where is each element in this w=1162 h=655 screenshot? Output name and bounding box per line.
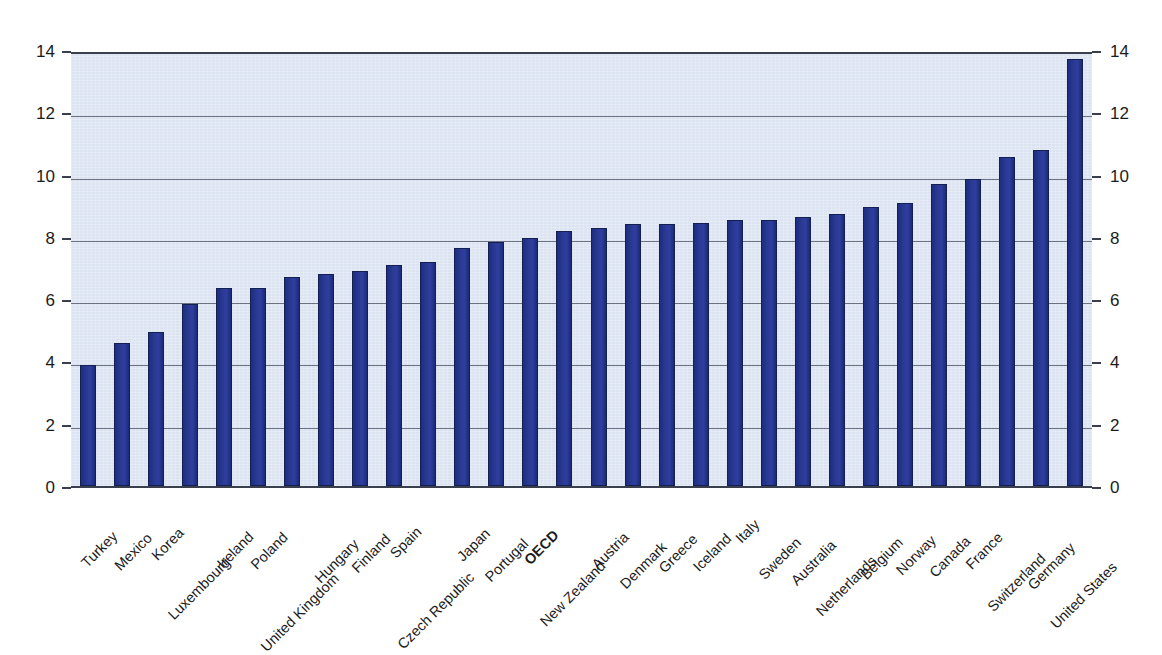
y-tick-mark-left-10 (62, 176, 71, 178)
x-tick-label: United Kingdom (258, 571, 341, 654)
y-tick-mark-right-4 (1092, 362, 1101, 364)
y-tick-mark-right-8 (1092, 238, 1101, 240)
x-tick-label: Korea (149, 525, 187, 563)
y-tick-mark-right-0 (1092, 487, 1101, 489)
bar (829, 214, 845, 487)
y-tick-mark-right-14 (1092, 51, 1101, 53)
y-tick-mark-left-14 (62, 51, 71, 53)
x-tick-label: United States (1048, 560, 1120, 632)
y-tick-mark-left-4 (62, 362, 71, 364)
bar (284, 277, 300, 486)
bar (488, 242, 504, 486)
bar (931, 184, 947, 486)
y-tick-mark-left-6 (62, 300, 71, 302)
x-tick-label: Japan (455, 526, 493, 564)
bar (250, 288, 266, 486)
bar (897, 203, 913, 486)
y-tick-mark-left-0 (62, 487, 71, 489)
y-tick-label-right-4: 4 (1110, 354, 1150, 371)
y-tick-mark-right-10 (1092, 176, 1101, 178)
y-tick-label-right-12: 12 (1110, 105, 1150, 122)
y-tick-label-left-6: 6 (15, 292, 55, 309)
y-tick-mark-right-6 (1092, 300, 1101, 302)
bar (863, 207, 879, 486)
bar (386, 265, 402, 486)
bar (965, 179, 981, 486)
x-tick-label: Spain (388, 524, 424, 560)
y-tick-label-right-10: 10 (1110, 168, 1150, 185)
bars-layer (71, 54, 1092, 486)
bar (522, 238, 538, 486)
bar (1067, 59, 1083, 486)
x-tick-label: Austria (589, 530, 631, 572)
x-tick-label: Poland (248, 530, 290, 572)
y-tick-label-left-14: 14 (15, 43, 55, 60)
x-tick-label: OECD (522, 528, 562, 568)
y-tick-label-left-2: 2 (15, 417, 55, 434)
y-tick-label-left-12: 12 (15, 105, 55, 122)
x-tick-label: Finland (350, 532, 394, 576)
bar (420, 262, 436, 486)
y-tick-mark-left-2 (62, 425, 71, 427)
x-axis-category-labels: TurkeyMexicoKoreaLuxembourgIrelandPoland… (0, 492, 1162, 628)
bar (659, 224, 675, 486)
bar (148, 332, 164, 486)
y-tick-label-right-14: 14 (1110, 43, 1150, 60)
plot-area (71, 52, 1092, 488)
x-tick-label: Italy (733, 517, 762, 546)
bar (693, 223, 709, 486)
y-tick-label-left-4: 4 (15, 354, 55, 371)
bar (795, 217, 811, 486)
bar (182, 304, 198, 486)
bar (556, 231, 572, 486)
y-tick-label-left-8: 8 (15, 230, 55, 247)
y-tick-label-right-8: 8 (1110, 230, 1150, 247)
bar (216, 288, 232, 486)
y-tick-mark-right-2 (1092, 425, 1101, 427)
bar (727, 220, 743, 486)
y-tick-label-right-6: 6 (1110, 292, 1150, 309)
x-tick-label: Czech Republic (395, 570, 477, 652)
x-tick-label: Ireland (215, 529, 257, 571)
bar (625, 224, 641, 486)
y-tick-mark-left-12 (62, 113, 71, 115)
bar (761, 220, 777, 486)
bar (999, 157, 1015, 486)
bar (80, 365, 96, 486)
bar (318, 274, 334, 486)
y-tick-label-right-2: 2 (1110, 417, 1150, 434)
y-tick-mark-right-12 (1092, 113, 1101, 115)
bar (591, 228, 607, 486)
bar (1033, 150, 1049, 486)
bar (114, 343, 130, 486)
bar (352, 271, 368, 486)
bar (454, 248, 470, 486)
y-tick-mark-left-8 (62, 238, 71, 240)
x-tick-label: France (963, 530, 1005, 572)
y-tick-label-left-10: 10 (15, 168, 55, 185)
